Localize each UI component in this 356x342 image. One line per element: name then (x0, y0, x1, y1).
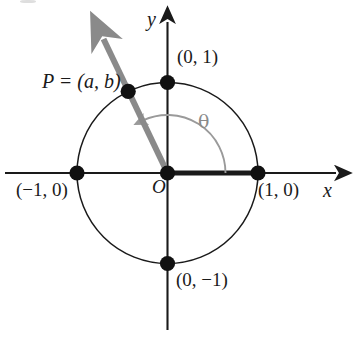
origin-label: O (152, 177, 166, 196)
x-axis-label: x (323, 180, 332, 200)
terminal-ray (104, 39, 168, 173)
y-axis-label: y (147, 9, 156, 29)
point-bottom-0-neg1 (160, 256, 175, 271)
unit-circle-figure: y x O P = (a, b) (0, 1) (1, 0) (−1, 0) (… (0, 0, 356, 342)
label-point-neg1-0: (−1, 0) (16, 180, 68, 199)
point-left-neg1-0 (69, 165, 84, 180)
point-top-0-1 (160, 75, 175, 90)
theta-label: θ (198, 112, 209, 131)
point-p-label: P = (a, b) (42, 71, 121, 91)
label-point-0-neg1: (0, −1) (176, 270, 228, 289)
label-point-0-1: (0, 1) (177, 47, 218, 66)
point-p-on-circle (121, 84, 136, 99)
label-point-1-0: (1, 0) (258, 180, 299, 199)
